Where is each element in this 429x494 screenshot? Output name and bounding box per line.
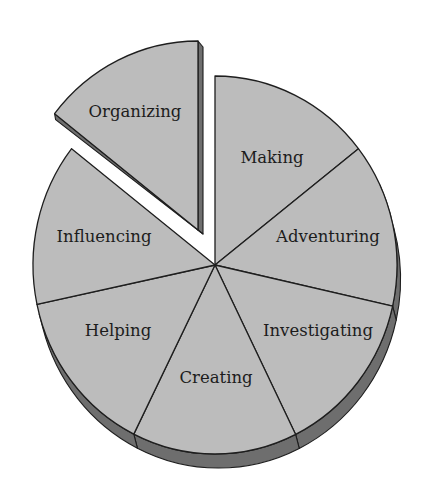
slice-label-organizing: Organizing xyxy=(89,102,182,121)
slice-label-making: Making xyxy=(240,148,304,167)
slice-label-helping: Helping xyxy=(85,321,152,340)
slice-label-investigating: Investigating xyxy=(263,321,374,340)
slice-side-organizing-right xyxy=(198,41,203,234)
pie-chart: MakingAdventuringInvestigatingCreatingHe… xyxy=(0,0,429,494)
slice-label-influencing: Influencing xyxy=(57,227,152,246)
slice-label-creating: Creating xyxy=(179,368,253,387)
slice-label-adventuring: Adventuring xyxy=(275,227,380,246)
